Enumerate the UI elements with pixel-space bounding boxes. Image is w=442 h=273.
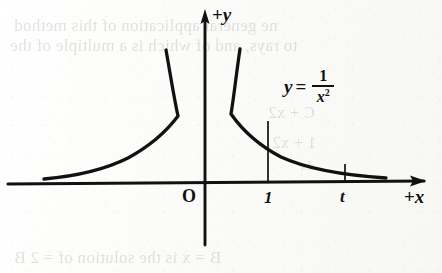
x-tick-label-t: t: [340, 187, 345, 207]
equation-lhs: y: [284, 76, 292, 98]
equation-operator: =: [295, 76, 306, 98]
x-axis-label-sign: +: [404, 186, 415, 207]
equation-denominator-exponent: 2: [325, 87, 330, 98]
figure-page: ne general application of this method to…: [0, 0, 442, 273]
x-tick-label-1: 1: [264, 188, 273, 208]
x-axis-line: [8, 181, 424, 184]
y-axis: [201, 9, 210, 245]
y-axis-label-sign: +: [212, 4, 223, 25]
y-axis-label: +y: [212, 4, 231, 26]
y-axis-label-name: y: [223, 4, 231, 25]
equation-numerator: 1: [316, 68, 330, 85]
x-axis-label: +x: [404, 186, 424, 208]
graph-figure: [0, 0, 442, 273]
equation-denominator-base: x: [317, 88, 325, 105]
equation-denominator: x2: [314, 87, 333, 105]
equation-fraction: 1 x2: [312, 68, 334, 105]
equation-annotation: y = 1 x2: [284, 68, 334, 105]
x-axis-label-name: x: [415, 186, 425, 207]
origin-label: O: [182, 186, 196, 207]
curve-left-branch: [44, 50, 178, 179]
